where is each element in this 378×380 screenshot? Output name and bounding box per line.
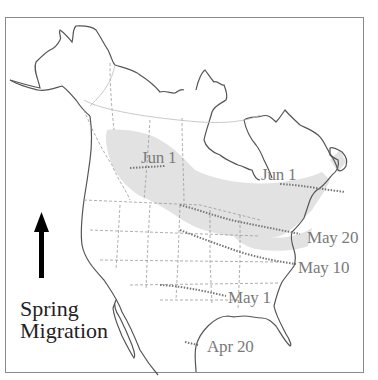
breeding-range-area — [106, 130, 330, 239]
arrow-up-icon — [34, 212, 49, 278]
label-jun1-west: Jun 1 — [141, 149, 176, 166]
label-apr20: Apr 20 — [207, 338, 254, 355]
legend-line-migration: Migration — [20, 320, 108, 342]
legend-line-spring: Spring — [20, 298, 108, 320]
label-jun1-east: Jun 1 — [261, 166, 296, 183]
legend: Spring Migration — [20, 298, 108, 342]
label-may20: May 20 — [307, 229, 358, 246]
label-may10: May 10 — [298, 259, 349, 276]
isochron-may1 — [160, 285, 226, 296]
label-may1: May 1 — [228, 289, 271, 306]
